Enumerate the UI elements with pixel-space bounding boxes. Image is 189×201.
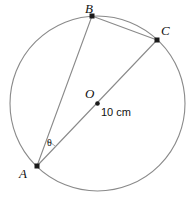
radius-measure-label: 10 cm <box>101 106 131 118</box>
point-label-a: A <box>18 166 27 181</box>
vertex-dot-c <box>155 38 160 43</box>
angle-label-theta: θ <box>47 137 52 148</box>
point-label-c: C <box>161 23 170 38</box>
vertex-dot-a <box>35 164 40 169</box>
center-dot-o <box>95 101 100 106</box>
geometry-canvas: A B C O θ 10 cm <box>0 0 189 201</box>
chord-a-b <box>37 16 92 166</box>
circle-geometry-diagram: A B C O θ 10 cm <box>0 0 189 201</box>
point-label-o: O <box>85 86 95 101</box>
chord-b-c <box>92 16 157 40</box>
point-label-b: B <box>85 1 93 16</box>
